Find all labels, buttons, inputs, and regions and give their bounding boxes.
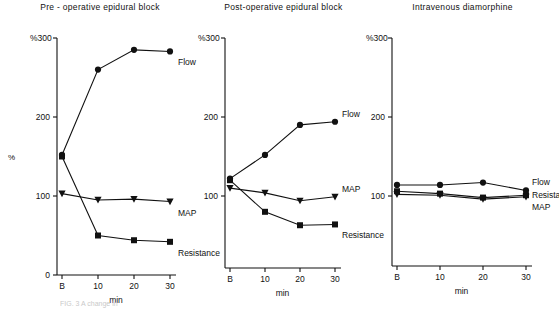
- x-tick-label: 20: [129, 281, 139, 291]
- series-line: [230, 122, 335, 179]
- x-axis-label: min: [455, 286, 469, 296]
- plot-svg: 0100200%300%B102030minFlowMAPResistance: [0, 0, 200, 312]
- x-tick-label: 10: [260, 274, 270, 284]
- series-label: Resistance: [532, 190, 559, 200]
- chart-panel-intravenous-diamorphine: Intravenous diamorphine 100200%300B10203…: [366, 0, 559, 312]
- series-label: Flow: [178, 57, 197, 67]
- series-label: MAP: [342, 184, 361, 194]
- chart-panel-post-operative: Post-operative epidural block 100200%300…: [196, 0, 371, 312]
- x-axis-label: min: [276, 288, 290, 298]
- chart-panel-pre-operative: Pre - operative epidural block 0100200%3…: [0, 0, 200, 312]
- y-axis-top-label: %300: [198, 33, 220, 43]
- series-label: Flow: [532, 177, 551, 187]
- series-label: Flow: [342, 109, 361, 119]
- y-axis-top-label: %300: [366, 33, 388, 43]
- figure-three-panel-chart: Pre - operative epidural block 0100200%3…: [0, 0, 559, 312]
- plot-svg: 100200%300B102030minFlowMAPResistance: [196, 0, 371, 312]
- panel-plot-area: 0100200%300%B102030minFlowMAPResistance: [0, 0, 200, 312]
- x-tick-label: 20: [478, 272, 488, 282]
- x-tick-label: 10: [93, 281, 103, 291]
- panel-plot-area: 100200%300B102030minFlowResistanceMAP: [366, 0, 559, 312]
- series-label: MAP: [178, 208, 197, 218]
- series-line: [230, 180, 335, 225]
- plot-svg: 100200%300B102030minFlowResistanceMAP: [366, 0, 559, 312]
- series-line: [62, 194, 170, 202]
- x-tick-label: 10: [435, 272, 445, 282]
- y-tick-label: 200: [204, 112, 218, 122]
- x-tick-label: 30: [330, 274, 340, 284]
- x-tick-label: 30: [521, 272, 531, 282]
- series-line: [62, 50, 170, 155]
- y-tick-label: 200: [36, 112, 50, 122]
- y-tick-label: 100: [36, 191, 50, 201]
- y-tick-label: 200: [371, 112, 385, 122]
- panel-plot-area: 100200%300B102030minFlowMAPResistance: [196, 0, 371, 312]
- series-label: MAP: [532, 202, 551, 212]
- y-tick-label: 100: [371, 191, 385, 201]
- x-tick-label: 30: [165, 281, 175, 291]
- x-tick-label: B: [394, 272, 400, 282]
- y-tick-label: 0: [45, 270, 50, 280]
- figure-caption: FIG. 3 A change in: [60, 300, 280, 312]
- x-tick-label: B: [59, 281, 65, 291]
- y-axis-top-label: %300: [30, 33, 52, 43]
- x-tick-label: 20: [295, 274, 305, 284]
- y-axis-unit-label: %: [8, 153, 15, 162]
- x-tick-label: B: [227, 274, 233, 284]
- series-line: [397, 183, 526, 191]
- y-tick-label: 100: [204, 191, 218, 201]
